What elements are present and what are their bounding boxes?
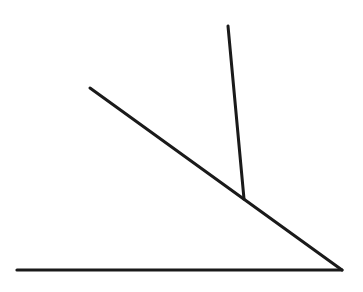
perpendicular-line: [228, 26, 244, 199]
geometry-diagram: [0, 0, 363, 292]
diagonal-line: [90, 88, 342, 270]
